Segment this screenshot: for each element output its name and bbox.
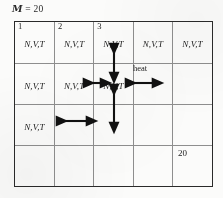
cell-r2c3[interactable]: N,V,T [94,63,133,104]
cell-r4c5[interactable]: 20 [173,145,212,186]
cell-index-2: 2 [58,22,62,32]
cell-label-nvt: N,V,T [103,39,123,49]
cell-index-3: 3 [97,22,101,32]
cell-label-nvt: N,V,T [143,39,163,49]
cell-r3c4[interactable] [133,104,172,145]
ensemble-table: 1 N,V,T 2 N,V,T 3 N,V,T N,V,T N,V,T [15,22,212,186]
caption-symbol: M [12,3,23,14]
cell-r3c1[interactable]: N,V,T [15,104,54,145]
cell-r4c4[interactable] [133,145,172,186]
figure-page: M = 20 1 N,V,T 2 N,V,T 3 N,V,T N,V,T [0,0,223,198]
cell-r1c1[interactable]: 1 N,V,T [15,22,54,63]
table-row: 1 N,V,T 2 N,V,T 3 N,V,T N,V,T N,V,T [15,22,212,63]
cell-label-nvt: N,V,T [24,81,44,91]
cell-label-nvt: N,V,T [64,39,84,49]
cell-r1c3[interactable]: 3 N,V,T [94,22,133,63]
cell-label-nvt: N,V,T [103,81,123,91]
table-row: N,V,T [15,104,212,145]
heat-label: heat [133,63,147,73]
cell-r4c3[interactable] [94,145,133,186]
cell-r3c5[interactable] [173,104,212,145]
cell-r1c4[interactable]: N,V,T [133,22,172,63]
cell-r3c3[interactable] [94,104,133,145]
cell-label-nvt: N,V,T [64,81,84,91]
cell-label-nvt: N,V,T [182,39,202,49]
cell-r2c5[interactable] [173,63,212,104]
ensemble-grid: 1 N,V,T 2 N,V,T 3 N,V,T N,V,T N,V,T [14,21,213,187]
cell-r1c2[interactable]: 2 N,V,T [54,22,93,63]
caption-equals: = 20 [23,4,44,14]
cell-r2c1[interactable]: N,V,T [15,63,54,104]
cell-label-nvt: N,V,T [24,39,44,49]
table-row: N,V,T N,V,T N,V,T [15,63,212,104]
cell-r1c5[interactable]: N,V,T [173,22,212,63]
cell-r3c2[interactable] [54,104,93,145]
cell-r2c2[interactable]: N,V,T [54,63,93,104]
table-row: 20 [15,145,212,186]
figure-caption: M = 20 [12,3,43,14]
cell-r4c2[interactable] [54,145,93,186]
cell-index-1: 1 [18,22,22,32]
cell-label-nvt: N,V,T [24,122,44,132]
cell-r4c1[interactable] [15,145,54,186]
cell-value-20: 20 [178,148,187,158]
